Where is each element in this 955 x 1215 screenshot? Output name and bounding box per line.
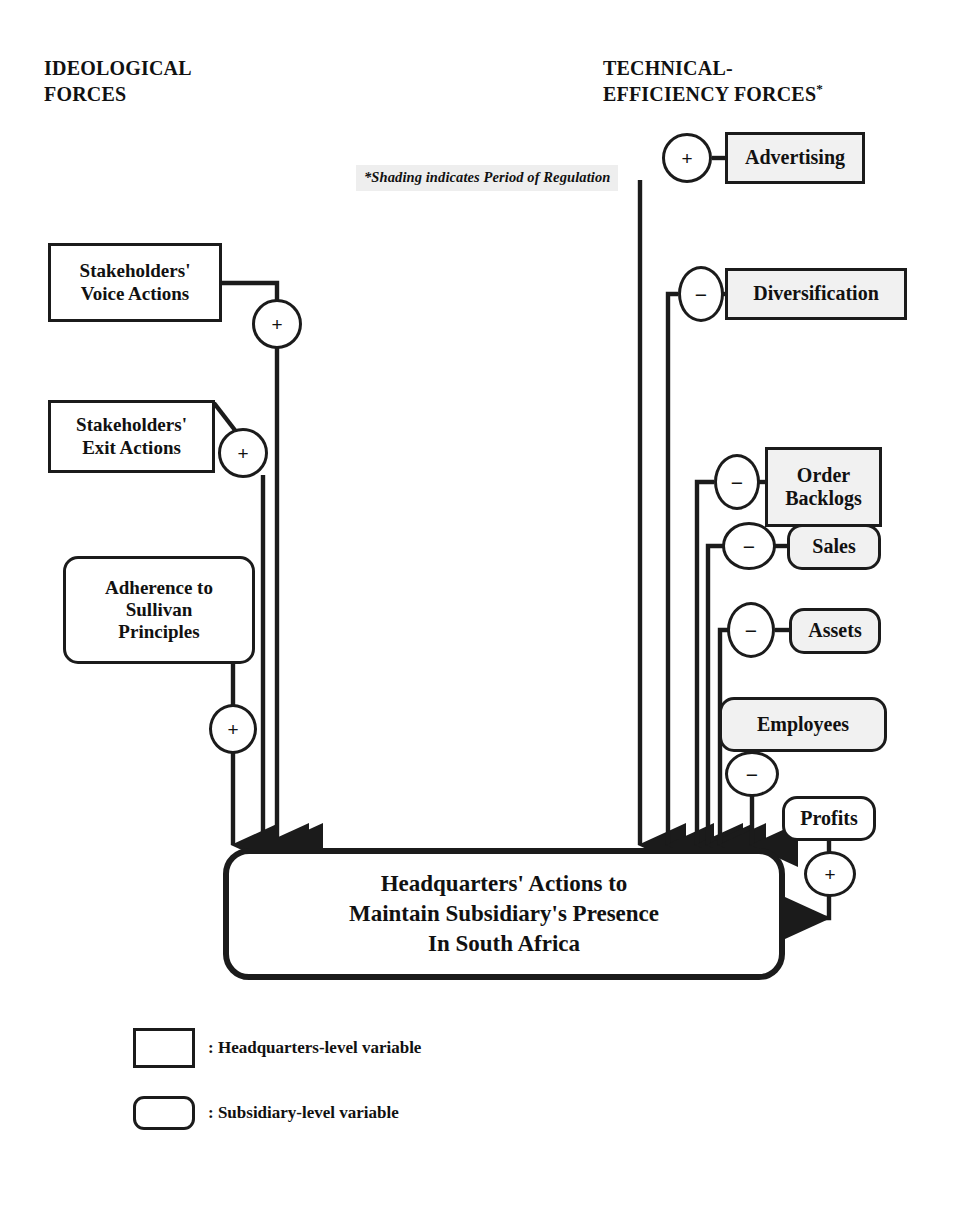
legend-label-subsidiary-level: : Subsidiary-level variable — [208, 1103, 399, 1123]
sign-sales-minus: − — [722, 522, 776, 570]
sign-employees-minus: − — [725, 751, 779, 797]
sign-stakeholders-voice-plus: + — [252, 299, 302, 349]
sign-advertising-glyph: + — [681, 149, 692, 168]
legend-swatch-rounded-icon — [133, 1096, 195, 1130]
legend-swatch-rectangle-icon — [133, 1028, 195, 1068]
node-employees[interactable]: Employees — [719, 697, 887, 752]
sign-profits-glyph: + — [824, 865, 835, 884]
wire-voice-stub — [221, 283, 277, 300]
node-profits-label: Profits — [800, 807, 857, 830]
sign-stakeholders-voice-glyph: + — [271, 315, 282, 334]
node-stakeholders-exit-actions[interactable]: Stakeholders' Exit Actions — [48, 400, 215, 473]
node-assets-label: Assets — [808, 619, 861, 642]
sign-assets-glyph: − — [745, 620, 757, 641]
sign-order-backlogs-minus: − — [714, 454, 760, 510]
sign-employees-glyph: − — [746, 764, 758, 785]
legend-item-subsidiary-level: : Subsidiary-level variable — [133, 1096, 399, 1130]
sign-sullivan-glyph: + — [227, 720, 238, 739]
sign-order-backlogs-glyph: − — [731, 472, 743, 493]
node-stakeholders-voice-actions-label: Stakeholders' Voice Actions — [80, 260, 191, 304]
wire-diversification-trunk — [668, 294, 678, 845]
shading-footnote: *Shading indicates Period of Regulation — [356, 165, 618, 191]
sign-sales-glyph: − — [743, 536, 755, 557]
sign-profits-plus: + — [804, 851, 856, 897]
node-stakeholders-voice-actions[interactable]: Stakeholders' Voice Actions — [48, 243, 222, 322]
page-title-technical-efficiency-forces-text: TECHNICAL- EFFICIENCY FORCES — [603, 57, 816, 105]
wire-orderbacklogs-trunk — [697, 482, 714, 845]
node-adherence-sullivan-principles-label: Adherence to Sullivan Principles — [105, 577, 213, 643]
node-headquarters-actions[interactable]: Headquarters' Actions to Maintain Subsid… — [223, 848, 785, 980]
sign-stakeholders-exit-glyph: + — [237, 444, 248, 463]
node-sales-label: Sales — [812, 535, 855, 558]
node-advertising-label: Advertising — [745, 146, 845, 169]
node-diversification-label: Diversification — [753, 282, 879, 305]
wire-profits-feedback — [785, 896, 829, 918]
diagram-canvas: IDEOLOGICAL FORCES TECHNICAL- EFFICIENCY… — [0, 0, 955, 1215]
node-sales[interactable]: Sales — [787, 524, 881, 570]
node-order-backlogs-label: Order Backlogs — [785, 464, 862, 510]
node-order-backlogs[interactable]: Order Backlogs — [765, 447, 882, 527]
page-title-technical-efficiency-forces: TECHNICAL- EFFICIENCY FORCES* — [603, 56, 823, 107]
asterisk-icon: * — [816, 81, 823, 96]
page-title-ideological-forces: IDEOLOGICAL FORCES — [44, 56, 192, 107]
sign-diversification-glyph: − — [695, 284, 707, 305]
node-diversification[interactable]: Diversification — [725, 268, 907, 320]
sign-stakeholders-exit-plus: + — [218, 428, 268, 478]
wire-sales-trunk — [708, 546, 732, 845]
node-assets[interactable]: Assets — [789, 608, 881, 654]
node-stakeholders-exit-actions-label: Stakeholders' Exit Actions — [76, 414, 187, 458]
node-employees-label: Employees — [757, 713, 849, 736]
sign-assets-minus: − — [727, 602, 775, 658]
node-advertising[interactable]: Advertising — [725, 132, 865, 184]
node-profits[interactable]: Profits — [782, 796, 876, 841]
sign-advertising-plus: + — [662, 133, 712, 183]
node-adherence-sullivan-principles[interactable]: Adherence to Sullivan Principles — [63, 556, 255, 664]
sign-sullivan-plus: + — [209, 704, 257, 754]
legend-label-headquarters-level: : Headquarters-level variable — [208, 1038, 421, 1058]
node-headquarters-actions-label: Headquarters' Actions to Maintain Subsid… — [349, 869, 659, 959]
sign-diversification-minus: − — [678, 266, 724, 322]
legend-item-headquarters-level: : Headquarters-level variable — [133, 1028, 421, 1068]
